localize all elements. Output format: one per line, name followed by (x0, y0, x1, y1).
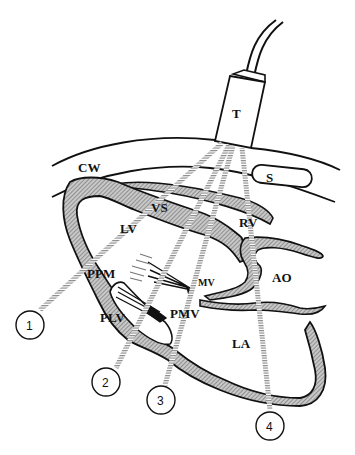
svg-text:2: 2 (102, 376, 109, 390)
plv-label: PLV (100, 310, 125, 325)
rv-label: RV (239, 215, 258, 230)
beam-marker-1: 1 (16, 311, 44, 339)
sternum: S (251, 164, 313, 188)
svg-text:4: 4 (266, 420, 273, 434)
lv-label: LV (120, 221, 137, 236)
ao-label: AO (272, 270, 292, 285)
la-label: LA (232, 336, 251, 351)
pmv-label: PMV (170, 306, 200, 321)
posterior-aortic-wall (200, 300, 325, 314)
sternum-label: S (266, 170, 273, 185)
beam-2 (116, 145, 229, 368)
beam-marker-2: 2 (92, 368, 120, 396)
chest-wall-label: CW (78, 160, 100, 175)
vs-label: VS (151, 200, 168, 215)
svg-text:1: 1 (26, 319, 33, 333)
echo-diagram: T CW S (0, 0, 355, 455)
svg-text:3: 3 (157, 394, 164, 408)
mv-label: MV (198, 277, 215, 288)
ppm-label: PPM (87, 266, 115, 281)
transducer-cable (246, 20, 283, 77)
transducer-label: T (232, 106, 241, 121)
beam-3 (165, 146, 233, 385)
aortic-root (205, 237, 323, 300)
transducer: T (215, 70, 265, 148)
beam-marker-4: 4 (256, 412, 284, 440)
beam-marker-3: 3 (147, 386, 175, 414)
